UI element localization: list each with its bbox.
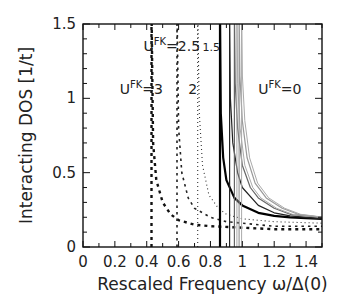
x-tick-label: 1.4 xyxy=(294,253,318,271)
y-axis-title: Interacting DOS [1/t] xyxy=(16,47,36,224)
x-tick-label: 1 xyxy=(238,253,248,271)
curve-label: UFK=2.5 xyxy=(144,36,201,54)
x-tick-label: 0 xyxy=(78,253,88,271)
x-axis-title: Rescaled Frequency ω/Δ(0) xyxy=(97,274,327,294)
x-tick-label: 0.2 xyxy=(103,253,127,271)
curve-label: UFK=0 xyxy=(258,79,301,97)
y-tick-label: 1.5 xyxy=(52,15,76,33)
x-tick-label: 0.4 xyxy=(135,253,159,271)
x-tick-label: 0.8 xyxy=(199,253,223,271)
series-u-fk-0.5 xyxy=(234,9,322,247)
plot-frame xyxy=(83,24,322,247)
x-tick-label: 1.2 xyxy=(262,253,286,271)
x-tick-label: 0.6 xyxy=(167,253,191,271)
curve-label: UFK=3 xyxy=(120,79,163,97)
axis-labels: 00.20.40.60.811.21.400.511.5Rescaled Fre… xyxy=(16,15,328,294)
curve-label: 1.5 xyxy=(203,41,221,54)
y-tick-label: 0.5 xyxy=(52,164,76,182)
annotations: UFK=3UFK=2.521.5UFK=0 xyxy=(120,36,302,97)
y-tick-label: 1 xyxy=(66,89,76,107)
y-tick-label: 0 xyxy=(66,238,76,256)
dos-chart: 00.20.40.60.811.21.400.511.5Rescaled Fre… xyxy=(0,0,342,307)
axes xyxy=(83,24,322,247)
curve-label: 2 xyxy=(188,81,197,97)
